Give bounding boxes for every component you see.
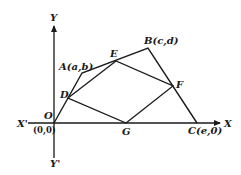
point-o-coord-label: (0,0) [33, 125, 56, 136]
point-g-label: G [122, 126, 131, 137]
point-d-label: D [59, 89, 69, 100]
point-b-label: B(c,d) [143, 35, 179, 47]
point-a-label: A(a,b) [58, 61, 93, 73]
y-axis-label: Y [50, 12, 58, 23]
point-c-label: C(e,0) [188, 125, 222, 137]
quadrilateral-diagram: Y Y' X X' O (0,0) A(a,b) B(c,d) C(e,0) D… [0, 0, 241, 175]
point-f-label: F [175, 79, 184, 90]
x-neg-axis-label: X' [16, 118, 28, 129]
point-o-label: O [44, 110, 53, 121]
x-axis-label: X [223, 118, 233, 129]
y-neg-axis-label: Y' [50, 158, 60, 169]
point-e-label: E [109, 48, 118, 59]
